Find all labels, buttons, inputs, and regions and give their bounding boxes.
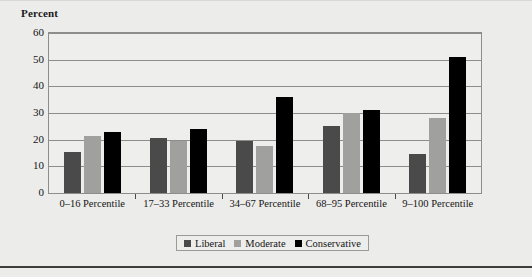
x-axis-tick-mark (395, 194, 396, 199)
bar-moderate (429, 118, 446, 193)
x-axis-tick-mark (308, 194, 309, 199)
legend-swatch-icon (184, 240, 191, 247)
x-tick-label: 34–67 Percentile (230, 198, 301, 209)
bar-moderate (170, 141, 187, 193)
y-tick-label: 30 (4, 106, 44, 118)
x-tick-label: 9–100 Percentile (402, 198, 473, 209)
bar-liberal (409, 154, 426, 193)
bar-liberal (236, 141, 253, 193)
legend-swatch-icon (295, 240, 302, 247)
bar-group (222, 33, 308, 193)
legend-item-moderate: Moderate (234, 238, 285, 249)
y-tick-label: 50 (4, 53, 44, 65)
bar-group (308, 33, 394, 193)
bar-group (135, 33, 221, 193)
chart-legend: LiberalModerateConservative (176, 235, 369, 251)
y-tick-label: 20 (4, 133, 44, 145)
y-tick-label: 0 (4, 186, 44, 198)
legend-label: Liberal (195, 238, 225, 249)
bar-conservative (104, 132, 121, 193)
legend-label: Moderate (245, 238, 285, 249)
bar-conservative (190, 129, 207, 193)
x-tick-label: 17–33 Percentile (143, 198, 214, 209)
bar-conservative (449, 57, 466, 193)
y-tick-label: 10 (4, 159, 44, 171)
top-edge-divider (0, 0, 532, 1)
bar-group (395, 33, 481, 193)
y-tick-label: 40 (4, 79, 44, 91)
bar-moderate (256, 146, 273, 193)
x-tick-label: 68–95 Percentile (316, 198, 387, 209)
y-tick-label: 60 (4, 26, 44, 38)
bar-moderate (84, 136, 101, 193)
bar-liberal (323, 126, 340, 193)
bar-group (49, 33, 135, 193)
bar-conservative (276, 97, 293, 193)
legend-swatch-icon (234, 240, 241, 247)
x-axis-tick-mark (222, 194, 223, 199)
bar-moderate (343, 113, 360, 193)
bars-layer (49, 33, 481, 193)
legend-label: Conservative (306, 238, 361, 249)
y-axis-ticks: 0102030405060 (0, 32, 44, 194)
bottom-rule-divider (0, 266, 532, 268)
bar-liberal (64, 152, 81, 193)
bar-conservative (363, 110, 380, 193)
legend-item-conservative: Conservative (295, 238, 361, 249)
x-tick-label: 0–16 Percentile (59, 198, 125, 209)
bar-liberal (150, 138, 167, 193)
chart-figure: Percent 0102030405060 0–16 Percentile17–… (0, 0, 532, 277)
x-axis-tick-mark (135, 194, 136, 199)
y-axis-title: Percent (21, 7, 58, 19)
legend-item-liberal: Liberal (184, 238, 225, 249)
